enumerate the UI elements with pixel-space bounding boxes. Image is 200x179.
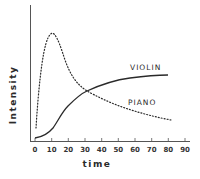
piano-curve — [36, 33, 171, 128]
x-tick-label: 0 — [33, 146, 38, 154]
x-tick-label: 70 — [147, 146, 157, 154]
x-tick-label: 50 — [113, 146, 123, 154]
x-tick-label: 20 — [63, 146, 73, 154]
x-tick-label: 90 — [180, 146, 190, 154]
x-axis-title: time — [83, 159, 112, 169]
x-tick-label: 60 — [130, 146, 140, 154]
intensity-time-chart: 0 10 20 30 40 50 60 70 80 90 time Intens… — [0, 0, 200, 179]
x-tick-label: 80 — [163, 146, 173, 154]
x-tick-label: 10 — [47, 146, 57, 154]
x-tick-label: 30 — [80, 146, 90, 154]
piano-label: PIANO — [128, 98, 156, 107]
y-axis-title: Intensity — [8, 66, 18, 125]
x-tick-labels: 0 10 20 30 40 50 60 70 80 90 — [33, 146, 190, 154]
violin-label: VIOLIN — [130, 63, 161, 72]
x-tick-label: 40 — [97, 146, 107, 154]
x-tick-marks — [35, 138, 185, 141]
